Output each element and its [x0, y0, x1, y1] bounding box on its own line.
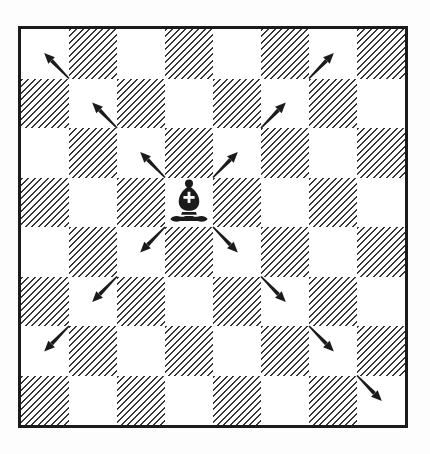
- square-e3: [213, 277, 261, 327]
- square-f6: [261, 128, 309, 178]
- square-e5: [213, 178, 261, 228]
- square-h2: [357, 326, 405, 376]
- square-d8: [165, 29, 213, 79]
- square-e7: [213, 79, 261, 129]
- square-a6: [21, 128, 69, 178]
- chess-diagram: [0, 0, 430, 454]
- square-e4: [213, 227, 261, 277]
- square-f2: [261, 326, 309, 376]
- square-d3: [165, 277, 213, 327]
- square-g6: [309, 128, 357, 178]
- chessboard-grid: [21, 29, 405, 425]
- square-b8: [69, 29, 117, 79]
- square-h4: [357, 227, 405, 277]
- square-f5: [261, 178, 309, 228]
- square-g2: [309, 326, 357, 376]
- square-a5: [21, 178, 69, 228]
- square-h3: [357, 277, 405, 327]
- square-c3: [117, 277, 165, 327]
- square-g4: [309, 227, 357, 277]
- square-d1: [165, 376, 213, 426]
- square-b1: [69, 376, 117, 426]
- square-b3: [69, 277, 117, 327]
- square-g1: [309, 376, 357, 426]
- square-g5: [309, 178, 357, 228]
- bishop-icon: [169, 178, 210, 225]
- square-e1: [213, 376, 261, 426]
- square-d6: [165, 128, 213, 178]
- square-h7: [357, 79, 405, 129]
- square-c7: [117, 79, 165, 129]
- square-b6: [69, 128, 117, 178]
- square-g7: [309, 79, 357, 129]
- square-a1: [21, 376, 69, 426]
- square-a4: [21, 227, 69, 277]
- square-c8: [117, 29, 165, 79]
- square-e8: [213, 29, 261, 79]
- chessboard-frame: [18, 26, 408, 428]
- square-h6: [357, 128, 405, 178]
- square-b2: [69, 326, 117, 376]
- square-d5: [165, 178, 213, 228]
- square-e2: [213, 326, 261, 376]
- square-c4: [117, 227, 165, 277]
- square-b7: [69, 79, 117, 129]
- square-f8: [261, 29, 309, 79]
- square-a8: [21, 29, 69, 79]
- square-g8: [309, 29, 357, 79]
- square-c2: [117, 326, 165, 376]
- square-h8: [357, 29, 405, 79]
- square-a7: [21, 79, 69, 129]
- square-g3: [309, 277, 357, 327]
- square-c1: [117, 376, 165, 426]
- square-f4: [261, 227, 309, 277]
- square-b4: [69, 227, 117, 277]
- square-d4: [165, 227, 213, 277]
- square-d7: [165, 79, 213, 129]
- square-e6: [213, 128, 261, 178]
- square-h5: [357, 178, 405, 228]
- black-bishop-piece: [169, 178, 210, 225]
- square-a3: [21, 277, 69, 327]
- square-f1: [261, 376, 309, 426]
- square-d2: [165, 326, 213, 376]
- square-c6: [117, 128, 165, 178]
- square-h1: [357, 376, 405, 426]
- square-a2: [21, 326, 69, 376]
- square-b5: [69, 178, 117, 228]
- square-f3: [261, 277, 309, 327]
- square-f7: [261, 79, 309, 129]
- square-c5: [117, 178, 165, 228]
